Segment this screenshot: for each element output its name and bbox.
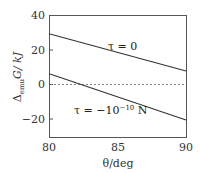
x-tick-label-85: 85 xyxy=(111,141,125,154)
x-axis-label: θ/deg xyxy=(103,157,134,170)
annotation-tau-neg-sup: −10 xyxy=(120,104,135,112)
svg-text:ΔemuG/ kJ: ΔemuG/ kJ xyxy=(11,51,26,102)
chart: 40 20 0 −20 80 85 90 θ/deg ΔemuG/ kJ τ =… xyxy=(0,0,200,173)
plot-frame xyxy=(50,16,187,138)
x-tick-label-80: 80 xyxy=(42,141,56,154)
annotation-tau-neg: τ = −10−10 N xyxy=(74,104,148,117)
annotation-tau-neg-base: τ = −10 xyxy=(74,104,120,117)
y-axis-label: ΔemuG/ kJ xyxy=(11,51,26,102)
annotation-tau-neg-suffix: N xyxy=(134,104,147,117)
y-axis-label-main: Δ xyxy=(11,94,24,102)
y-tick-label-40: 40 xyxy=(31,9,45,22)
y-tick-label-20: 20 xyxy=(31,44,45,57)
y-tick-label-0: 0 xyxy=(38,78,45,91)
y-axis-label-sub: emu xyxy=(18,78,26,94)
y-ticks xyxy=(50,16,54,120)
annotation-tau-0: τ = 0 xyxy=(108,40,137,53)
y-tick-label-neg20: −20 xyxy=(22,113,45,126)
y-axis-label-rest: G/ kJ xyxy=(11,51,24,79)
x-tick-label-90: 90 xyxy=(179,141,193,154)
